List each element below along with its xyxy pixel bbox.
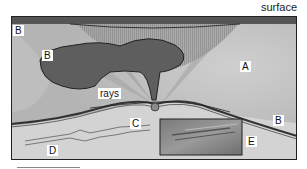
surface-band — [11, 16, 297, 24]
label-rays: rays — [98, 88, 121, 99]
label-a: A — [240, 61, 251, 72]
label-b-body: B — [42, 50, 53, 61]
label-b-right: B — [273, 115, 284, 126]
label-c: C — [130, 118, 141, 129]
label-b-top-left: B — [13, 25, 24, 36]
cross-section-diagram — [0, 0, 307, 169]
label-e: E — [246, 136, 257, 147]
source-point — [151, 103, 159, 111]
scale-bar — [17, 167, 80, 168]
label-d: D — [47, 145, 58, 156]
